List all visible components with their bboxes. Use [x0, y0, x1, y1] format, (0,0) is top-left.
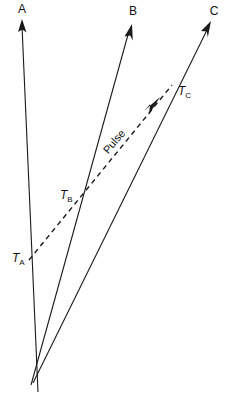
event-label-ta: TA	[12, 251, 25, 267]
worldline-b	[31, 31, 129, 385]
worldline-b-label: B	[129, 4, 137, 18]
pulse-arrowhead	[145, 97, 161, 115]
worldline-c-label: C	[210, 4, 219, 18]
spacetime-diagram: A B C TA TB TC Pulse	[0, 0, 228, 402]
worldline-b-arrowhead	[125, 24, 133, 40]
diagram-canvas: A B C TA TB TC Pulse	[0, 0, 228, 402]
event-tc-subscript: C	[185, 91, 191, 100]
worldline-c	[33, 28, 208, 383]
worldline-a	[22, 26, 38, 392]
pulse-label: Pulse	[100, 127, 127, 156]
event-ta-subscript: A	[19, 258, 25, 267]
worldline-c-arrowhead	[201, 21, 211, 37]
event-tb-subscript: B	[67, 195, 72, 204]
event-label-tc: TC	[178, 84, 191, 100]
event-label-tb: TB	[60, 188, 73, 204]
worldline-a-label: A	[18, 2, 26, 16]
